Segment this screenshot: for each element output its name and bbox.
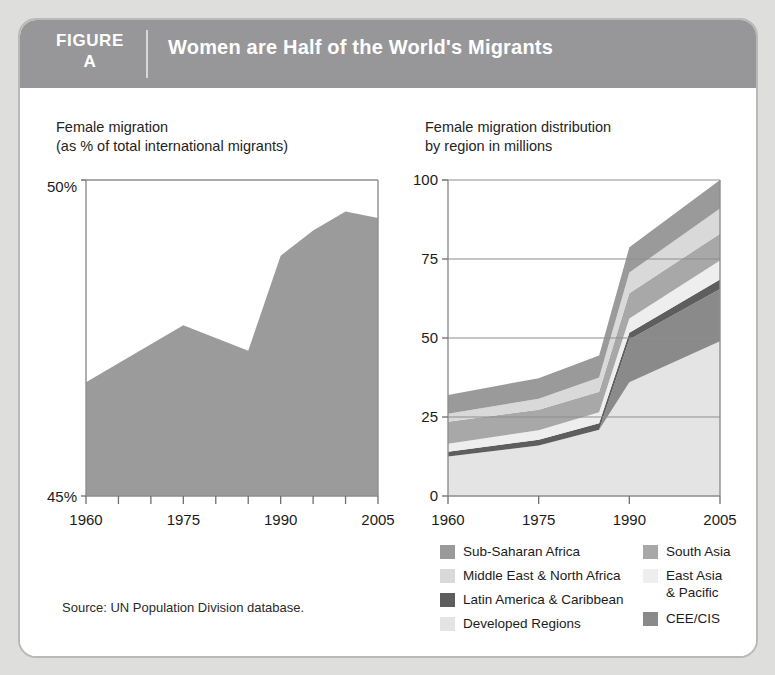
legend-swatch-icon — [440, 545, 455, 559]
legend-item-label: East Asia & Pacific — [666, 567, 722, 601]
figure-label-letter: A — [44, 51, 136, 72]
source-note: Source: UN Population Division database. — [62, 600, 304, 615]
figure-card: FIGURE A Women are Half of the World's M… — [18, 18, 758, 658]
legend-item-label: Developed Regions — [463, 615, 581, 632]
figure-header-divider — [146, 30, 148, 78]
figure-body: Female migration (as % of total internat… — [20, 88, 758, 658]
legend-item-label: Sub-Saharan Africa — [463, 543, 580, 560]
female-migration-by-region-chart: 02550751001960197519902005 — [400, 166, 758, 566]
right-chart-title: Female migration distribution by region … — [425, 118, 611, 156]
legend-item-label: Latin America & Caribbean — [463, 591, 624, 608]
y-tick-label: 75 — [421, 250, 438, 267]
legend-item[interactable]: East Asia & Pacific — [643, 567, 753, 605]
figure-screenshot: FIGURE A Women are Half of the World's M… — [0, 0, 775, 675]
x-tick-label: 1960 — [69, 511, 102, 528]
y-tick-label: 50% — [47, 178, 77, 195]
legend-swatch-icon — [643, 612, 658, 626]
x-tick-label: 1990 — [264, 511, 297, 528]
x-tick-label: 2005 — [703, 511, 736, 528]
legend-swatch-icon — [440, 569, 455, 583]
female-migration-share-chart: 45%50%1960197519902005 — [30, 166, 400, 566]
legend-item[interactable]: Developed Regions — [440, 615, 640, 634]
legend-item[interactable]: Middle East & North Africa — [440, 567, 640, 586]
legend-column-left: Sub-Saharan AfricaMiddle East & North Af… — [440, 543, 640, 639]
legend-column-right: South AsiaEast Asia & PacificCEE/CIS — [643, 543, 753, 634]
y-tick-label: 0 — [430, 487, 438, 504]
figure-label-word: FIGURE — [56, 31, 124, 50]
legend-item[interactable]: Sub-Saharan Africa — [440, 543, 640, 562]
figure-title: Women are Half of the World's Migrants — [168, 36, 553, 59]
y-tick-label: 50 — [421, 329, 438, 346]
legend-item-label: Middle East & North Africa — [463, 567, 621, 584]
legend-item[interactable]: South Asia — [643, 543, 753, 562]
legend-item[interactable]: Latin America & Caribbean — [440, 591, 640, 610]
legend-item-label: CEE/CIS — [666, 610, 720, 627]
legend-swatch-icon — [440, 593, 455, 607]
y-tick-label: 25 — [421, 408, 438, 425]
figure-header: FIGURE A Women are Half of the World's M… — [20, 20, 758, 88]
x-tick-label: 1960 — [431, 511, 464, 528]
x-tick-label: 2005 — [361, 511, 394, 528]
legend-item[interactable]: CEE/CIS — [643, 610, 753, 629]
legend-swatch-icon — [643, 545, 658, 559]
legend-swatch-icon — [440, 617, 455, 631]
legend-item-label: South Asia — [666, 543, 731, 560]
y-tick-label: 45% — [47, 488, 77, 505]
y-tick-label: 100 — [413, 171, 438, 188]
area-series-female-share — [86, 212, 378, 496]
left-chart-title: Female migration (as % of total internat… — [56, 118, 288, 156]
x-tick-label: 1990 — [613, 511, 646, 528]
figure-label: FIGURE A — [44, 30, 136, 72]
x-tick-label: 1975 — [167, 511, 200, 528]
legend-swatch-icon — [643, 569, 658, 583]
x-tick-label: 1975 — [522, 511, 555, 528]
